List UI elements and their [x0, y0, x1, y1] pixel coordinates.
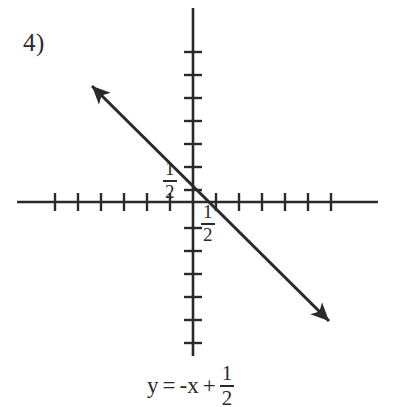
equation-slope-term: -x: [179, 374, 198, 397]
y-intercept-label: 1 2: [163, 160, 177, 201]
fraction-numerator: 1: [201, 203, 215, 222]
worksheet-page: 4) 1 2 1 2 y = -x + 1 2: [0, 0, 396, 407]
coordinate-graph: [0, 0, 396, 407]
equation-caption: y = -x + 1 2: [147, 363, 234, 407]
equation-lhs: y: [147, 374, 159, 397]
fraction-numerator: 1: [163, 160, 177, 179]
fraction-one-half: 1 2: [201, 203, 215, 244]
equation-equals-sign: =: [163, 374, 176, 397]
fraction-denominator: 2: [201, 226, 215, 245]
fraction-denominator: 2: [220, 388, 235, 407]
problem-number: 4): [23, 30, 45, 55]
equation-plus-sign: +: [203, 374, 216, 397]
fraction-denominator: 2: [163, 183, 177, 202]
x-axis: [17, 193, 378, 211]
x-intercept-label: 1 2: [201, 203, 215, 244]
fraction-numerator: 1: [220, 363, 235, 384]
equation-constant-fraction: 1 2: [220, 363, 235, 407]
fraction-one-half: 1 2: [163, 160, 177, 201]
